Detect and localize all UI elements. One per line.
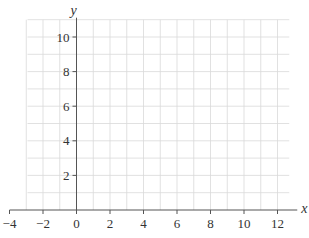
y-tick-label: 10 (57, 30, 70, 45)
x-tick-label: 8 (207, 216, 214, 231)
x-tick-label: 2 (107, 216, 114, 231)
x-tick-label: 10 (238, 216, 251, 231)
y-tick-label: 2 (63, 168, 70, 183)
axes (10, 18, 298, 210)
x-axis-label: x (300, 201, 308, 216)
y-tick-label: 6 (63, 99, 70, 114)
x-tick-label: 6 (174, 216, 181, 231)
x-tick-label: 12 (271, 216, 284, 231)
y-tick-label: 8 (63, 64, 70, 79)
x-tick-label: −4 (3, 216, 17, 231)
x-tick-label: −2 (36, 216, 50, 231)
x-tick-label: 0 (73, 216, 80, 231)
y-tick-label: 4 (63, 133, 70, 148)
y-axis-label: y (69, 3, 78, 18)
x-tick-label: 4 (140, 216, 147, 231)
coordinate-grid: −4−2024681012246810 x y (0, 0, 309, 238)
